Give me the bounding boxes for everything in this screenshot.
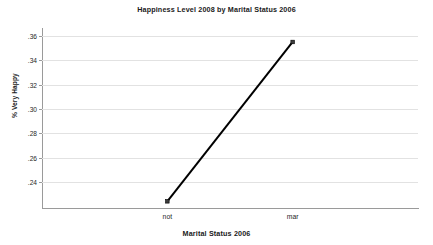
y-gridline: .26 xyxy=(42,158,418,159)
y-gridline: .30 xyxy=(42,109,418,110)
y-tick-mark xyxy=(39,133,42,134)
y-tick-label: .26 xyxy=(28,154,37,161)
y-gridline: .34 xyxy=(42,60,418,61)
y-tick-label: .24 xyxy=(28,178,37,185)
y-tick-mark xyxy=(39,182,42,183)
chart-container: Happiness Level 2008 by Marital Status 2… xyxy=(0,0,433,245)
y-tick-mark xyxy=(39,60,42,61)
chart-title: Happiness Level 2008 by Marital Status 2… xyxy=(0,5,433,14)
y-tick-label: .28 xyxy=(28,130,37,137)
y-tick-label: .36 xyxy=(28,32,37,39)
plot-area: .36.34.32.30.28.26.24 xyxy=(42,28,418,208)
y-gridline: .36 xyxy=(42,36,418,37)
y-tick-mark xyxy=(39,158,42,159)
x-tick-label: not xyxy=(163,213,172,220)
y-tick-mark xyxy=(39,109,42,110)
y-axis-title: % Very Happy xyxy=(11,73,18,118)
x-axis-title: Marital Status 2006 xyxy=(0,229,433,238)
y-tick-label: .32 xyxy=(28,81,37,88)
y-gridline: .28 xyxy=(42,133,418,134)
y-tick-mark xyxy=(39,36,42,37)
y-tick-mark xyxy=(39,85,42,86)
y-gridline: .24 xyxy=(42,182,418,183)
y-tick-label: .30 xyxy=(28,105,37,112)
y-gridline: .32 xyxy=(42,85,418,86)
x-axis-line xyxy=(42,208,419,209)
y-tick-label: .34 xyxy=(28,57,37,64)
x-tick-label: mar xyxy=(287,213,299,220)
